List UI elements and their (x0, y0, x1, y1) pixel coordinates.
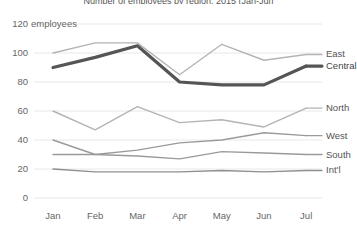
y-axis-tick-label: 40 (0, 135, 28, 145)
series-label-west: West (326, 131, 347, 141)
series-line (53, 46, 306, 85)
series-label-north: North (326, 103, 349, 113)
series-label-south: South (326, 150, 351, 160)
y-axis-tick-label: 120 (0, 19, 28, 29)
x-axis-tick-label: May (205, 211, 239, 221)
y-axis-tick-label: 20 (0, 164, 28, 174)
line-chart: Number of employees by region, 2015 (Jan… (0, 0, 357, 235)
x-axis-tick-label: Jul (289, 211, 323, 221)
x-axis-tick-label: Mar (120, 211, 154, 221)
y-axis-tick-label: 0 (0, 193, 28, 203)
series-line (53, 133, 306, 155)
series-lines (53, 43, 322, 172)
series-line (53, 107, 306, 130)
y-axis-unit-label: employees (31, 19, 77, 29)
y-axis-tick-label: 60 (0, 106, 28, 116)
series-label-central: Central (326, 61, 357, 71)
y-axis-tick-label: 80 (0, 77, 28, 87)
x-axis-tick-label: Feb (78, 211, 112, 221)
x-axis-tick-label: Jun (247, 211, 281, 221)
x-axis-tick-label: Jan (36, 211, 70, 221)
y-axis-tick-label: 100 (0, 48, 28, 58)
plot-area (0, 0, 357, 235)
series-label-int-l: Int'l (326, 165, 341, 175)
series-label-east: East (326, 49, 345, 59)
x-axis-tick-label: Apr (163, 211, 197, 221)
